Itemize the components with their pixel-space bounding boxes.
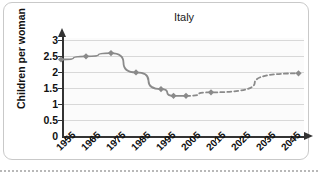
y-axis-label: Children per woman <box>15 13 27 109</box>
y-axis-arrow-icon <box>58 28 66 37</box>
y-tick-mark-1 <box>58 104 62 105</box>
y-tick-label-0p5: 0.5 <box>32 114 58 126</box>
y-tick-mark-2 <box>58 72 62 73</box>
y-tick-mark-3 <box>58 40 62 41</box>
x-axis-arrow-icon <box>304 132 313 140</box>
y-tick-mark-1p5 <box>58 88 62 89</box>
y-tick-label-2: 2 <box>32 66 58 78</box>
gridline-1 <box>63 104 304 105</box>
y-tick-label-0: 0 <box>32 130 58 142</box>
gridline-2p5 <box>63 56 304 57</box>
gridline-1p5 <box>63 88 304 89</box>
y-tick-label-2p5: 2.5 <box>32 50 58 62</box>
y-tick-label-1p5: 1.5 <box>32 82 58 94</box>
y-tick-label-1: 1 <box>32 98 58 110</box>
y-tick-label-3: 3 <box>32 34 58 46</box>
plot-area <box>63 38 304 137</box>
chart-card: Italy Children per woman 3 2.5 2 1.5 1 0… <box>3 2 309 160</box>
chart-title: Italy <box>124 11 244 23</box>
y-tick-mark-0p5 <box>58 120 62 121</box>
y-axis-line <box>62 36 64 137</box>
gridline-3 <box>63 40 304 41</box>
y-tick-mark-2p5 <box>58 56 62 57</box>
gridline-2 <box>63 72 304 73</box>
page-dotted-divider <box>0 170 318 172</box>
gridline-0p5 <box>63 120 304 121</box>
